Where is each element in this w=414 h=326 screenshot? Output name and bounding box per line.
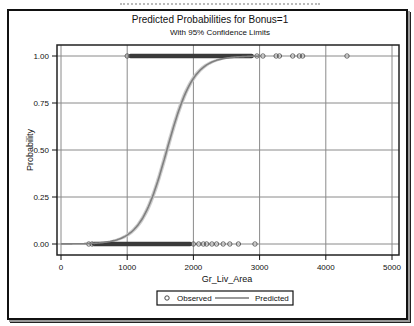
y-tick-label: 0.75 [33, 99, 49, 108]
x-tick-label: 5000 [383, 263, 401, 272]
legend-predicted-label: Predicted [255, 294, 289, 303]
x-tick-label: 3000 [251, 263, 269, 272]
y-tick-label: 1.00 [33, 52, 49, 61]
y-axis-ticks: 0.000.250.500.751.00 [33, 52, 57, 249]
y-tick-label: 0.50 [33, 146, 49, 155]
x-tick-label: 1000 [118, 263, 136, 272]
chart: Predicted Probabilities for Bonus=1 With… [0, 0, 414, 326]
y-axis-label: Probability [25, 128, 35, 171]
x-axis-ticks: 010002000300040005000 [59, 255, 402, 272]
y-tick-label: 0.00 [33, 240, 49, 249]
legend-observed-label: Observed [177, 294, 212, 303]
x-axis-label: Gr_Liv_Area [202, 274, 253, 284]
chart-subtitle: With 95% Confidence Limits [170, 28, 270, 37]
x-tick-label: 2000 [185, 263, 203, 272]
y-tick-label: 0.25 [33, 193, 49, 202]
chart-title: Predicted Probabilities for Bonus=1 [132, 14, 289, 25]
grid-lines [57, 45, 399, 255]
x-tick-label: 4000 [317, 263, 335, 272]
x-tick-label: 0 [59, 263, 64, 272]
legend: Observed Predicted [157, 291, 293, 305]
